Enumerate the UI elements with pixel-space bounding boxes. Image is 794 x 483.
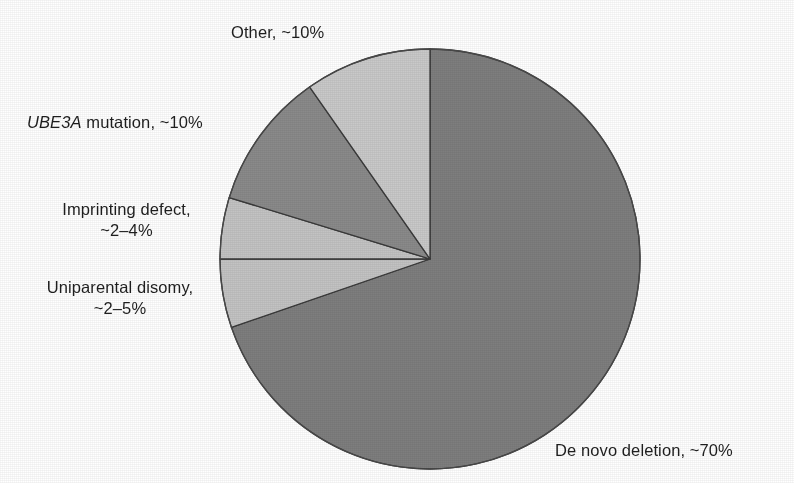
pie-chart-figure: De novo deletion, ~70%Uniparental disomy…: [0, 0, 794, 483]
pie-chart-canvas: De novo deletion, ~70%Uniparental disomy…: [0, 0, 794, 483]
pie-label-uniparental-disomy: Uniparental disomy, ~2–5%: [11, 277, 229, 319]
pie-label-ube3a-mutation: UBE3A mutation, ~10%: [27, 112, 203, 133]
pie-label-uniparental-disomy-line1: Uniparental disomy,: [11, 277, 229, 298]
pie-label-imprinting-defect: Imprinting defect, ~2–4%: [34, 199, 219, 241]
pie-label-imprinting-defect-line1: Imprinting defect,: [34, 199, 219, 220]
pie-label-de-novo-deletion: De novo deletion, ~70%: [555, 440, 733, 461]
pie-slice-group: De novo deletion, ~70%Uniparental disomy…: [220, 49, 640, 469]
pie-label-ube3a-gene-name: UBE3A: [27, 113, 82, 131]
pie-label-uniparental-disomy-line2: ~2–5%: [11, 298, 229, 319]
pie-label-other: Other, ~10%: [231, 22, 324, 43]
pie-label-imprinting-defect-line2: ~2–4%: [34, 220, 219, 241]
pie-label-de-novo-deletion-text: De novo deletion, ~70%: [555, 441, 733, 459]
pie-label-ube3a-rest: mutation, ~10%: [82, 113, 203, 131]
pie-label-other-text: Other, ~10%: [231, 23, 324, 41]
